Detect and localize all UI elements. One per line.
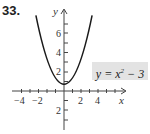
x-tick-label: 4 <box>95 95 100 106</box>
y-tick-label: 2 <box>56 105 61 116</box>
x-tick-label: −2 <box>32 95 43 106</box>
x-tick-label: 2 <box>78 95 83 106</box>
y-tick-label: 6 <box>56 28 61 39</box>
y-tick-label: 4 <box>56 47 61 58</box>
x-tick-label: −4 <box>14 95 25 106</box>
y-axis-label: y <box>52 5 58 17</box>
equation-label: y = x2 − 3 <box>92 62 148 80</box>
x-axis-label: x <box>118 94 124 106</box>
y-tick-label: 2 <box>56 66 61 77</box>
y-ticks <box>64 24 68 120</box>
